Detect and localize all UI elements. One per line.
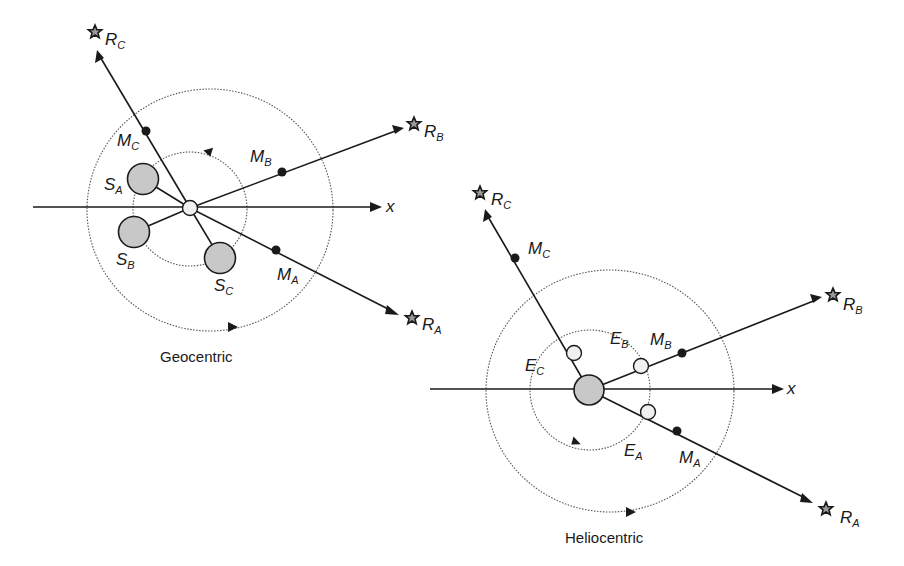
star-icon [88,25,101,38]
sun-position-C [205,243,236,274]
orbit-direction-arrow-icon [228,322,238,332]
earth [183,201,198,216]
diagram-canvas: x RC RB RA MC MB MA SA SB S [0,0,904,566]
mars-position-C [142,127,151,136]
line-of-sight-A [589,390,807,499]
label-EC: EC [525,356,544,377]
label-MB: MB [250,147,272,168]
sun-position-A [128,164,159,195]
label-EA: EA [624,441,643,462]
label-RB: RB [843,295,863,316]
mars-position-A [272,246,281,255]
mars-position-B [678,349,687,358]
label-RA: RA [422,315,442,336]
earth-position-A [641,405,656,420]
line-of-sight-B [190,130,398,208]
label-RC: RC [105,30,125,51]
earth-position-B [634,359,649,374]
mars-position-A [673,427,682,436]
mars-position-C [511,254,520,263]
star-icon [819,502,832,515]
star-icon [826,288,839,301]
x-axis-arrow-icon [772,384,784,394]
caption-geocentric: Geocentric [160,348,233,365]
ray-arrow-icon [800,493,813,503]
ray-arrow-icon [392,125,404,134]
geocentric-panel: x RC RB RA MC MB MA SA SB S [33,25,444,365]
ray-arrow-icon [385,305,399,315]
label-EB: EB [610,329,629,350]
label-MA: MA [277,265,299,286]
x-axis-arrow-icon [370,202,382,212]
x-axis-label: x [385,197,395,216]
label-SA: SA [104,175,123,196]
sun [574,375,604,405]
mars-position-B [278,168,287,177]
label-MC: MC [528,239,550,260]
label-SB: SB [116,250,135,271]
label-MA: MA [679,448,701,469]
label-MC: MC [117,131,139,152]
star-icon [407,117,420,130]
mars-orbit [87,89,333,331]
star-icon [405,311,418,324]
label-MB: MB [650,330,672,351]
heliocentric-panel: x RC RB RA MC MB MA EB EC EA Heliocentri… [430,186,863,546]
x-axis-label: x [786,379,796,398]
orbit-direction-arrow-icon [570,437,583,449]
star-icon [473,186,486,199]
label-RB: RB [424,122,444,143]
mars-orbit [486,270,734,512]
orbit-direction-arrow-icon [626,507,636,517]
earth-position-C [567,346,582,361]
label-SC: SC [214,276,233,297]
sun-position-B [119,217,150,248]
caption-heliocentric: Heliocentric [565,529,644,546]
label-RC: RC [491,190,511,211]
label-RA: RA [840,508,860,529]
